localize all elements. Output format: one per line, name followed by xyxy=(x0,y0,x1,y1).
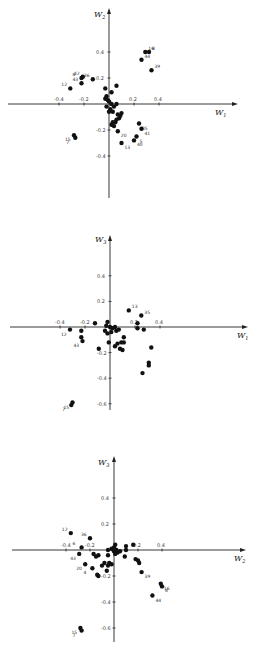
axes-3 xyxy=(12,456,246,642)
data-point xyxy=(83,562,87,566)
x-tick-label: -0.4 xyxy=(61,542,71,548)
y-tick-label: 0.4 xyxy=(97,273,105,279)
data-point xyxy=(109,562,113,566)
x-tick-label: -0.2 xyxy=(79,96,89,102)
data-point xyxy=(137,561,141,565)
point-label: 20 xyxy=(76,566,82,571)
point-label: 36 xyxy=(81,532,87,537)
x-tick-label: 0.2 xyxy=(129,96,137,102)
axes-2 xyxy=(10,235,248,410)
point-label: 35 xyxy=(144,310,150,315)
point-label: 13 xyxy=(125,145,131,150)
point-label: 8 xyxy=(165,588,168,593)
data-point xyxy=(88,536,92,540)
data-point xyxy=(104,104,108,108)
data-point xyxy=(140,371,144,375)
data-point xyxy=(106,553,110,557)
data-point xyxy=(123,554,127,558)
data-point xyxy=(79,81,83,85)
data-point xyxy=(117,327,121,331)
data-point xyxy=(113,325,117,329)
point-label: 41 xyxy=(145,131,151,136)
y-tick-label: 0.4 xyxy=(96,49,104,55)
y-axis-label-2: W3 xyxy=(95,235,106,245)
point-label: 7 xyxy=(62,407,65,412)
points-2: 13351243157 xyxy=(61,304,154,412)
point-label: 7 xyxy=(66,140,69,145)
point-label: 43 xyxy=(74,343,80,348)
y-axis-label-1: W2 xyxy=(94,10,105,20)
data-point xyxy=(149,68,153,72)
x-axis-label-2: W1 xyxy=(237,331,248,341)
x-tick-label: 0.4 xyxy=(154,96,162,102)
point-label: 39 xyxy=(155,64,161,69)
data-point xyxy=(109,330,113,334)
data-point xyxy=(150,593,154,597)
data-point xyxy=(109,90,113,94)
y-axis-label-3: W3 xyxy=(98,458,109,468)
data-point xyxy=(118,549,122,553)
data-point xyxy=(96,574,100,578)
data-point xyxy=(114,102,118,106)
data-point xyxy=(105,569,109,573)
data-point xyxy=(134,134,138,138)
x-axis-label-3: W2 xyxy=(234,554,245,564)
data-point xyxy=(139,58,143,62)
y-tick-label: -0.4 xyxy=(101,599,111,605)
data-point xyxy=(137,121,141,125)
point-label: 44 xyxy=(145,54,151,59)
data-point xyxy=(68,327,72,331)
x-tick-label: -0.4 xyxy=(55,319,65,325)
data-point xyxy=(79,545,83,549)
point-label: 13 xyxy=(132,304,138,309)
scatter-plot-w1-w3: -0.4-0.20.20.40.40.2-0.2-0.4-0.6 W3 W1 1… xyxy=(0,210,257,420)
ticks-2: -0.4-0.20.20.40.40.2-0.2-0.4-0.6 xyxy=(55,273,163,407)
data-point xyxy=(119,141,123,145)
data-point xyxy=(102,561,106,565)
plot-canvas-3: -0.4-0.20.20.40.40.2-0.2-0.4-0.6 W3 W2 1… xyxy=(0,420,257,651)
data-point xyxy=(124,544,128,548)
y-tick-label: 0.4 xyxy=(101,495,109,501)
data-point xyxy=(79,335,83,339)
data-point xyxy=(109,123,113,127)
point-label: 4 xyxy=(83,570,86,575)
data-point xyxy=(139,313,143,317)
data-point xyxy=(149,345,153,349)
data-point xyxy=(79,329,83,333)
point-label: 12 xyxy=(62,527,68,532)
y-tick-label: 0.2 xyxy=(97,298,105,304)
scatter-plot-w1-w2: -0.4-0.20.20.40.40.2-0.2-0.4 W2 W1 16844… xyxy=(0,0,257,210)
data-point xyxy=(69,531,73,535)
point-label: 43 xyxy=(73,77,79,82)
y-tick-label: -0.4 xyxy=(97,375,107,381)
y-tick-label: -0.4 xyxy=(96,153,106,159)
y-tick-label: -0.2 xyxy=(96,127,106,133)
data-point xyxy=(139,127,143,131)
point-label: 44 xyxy=(155,598,161,603)
data-point xyxy=(116,129,120,133)
axes-1 xyxy=(8,8,238,198)
data-point xyxy=(90,566,94,570)
data-point xyxy=(111,110,115,114)
data-point xyxy=(147,363,151,367)
point-label: 40 xyxy=(137,142,143,147)
data-point xyxy=(107,110,111,114)
data-point xyxy=(105,320,109,324)
point-label: 7 xyxy=(73,633,76,638)
points-3: 12366432043916844157 xyxy=(62,527,170,638)
y-tick-label: -0.6 xyxy=(101,625,111,631)
data-point xyxy=(119,111,123,115)
x-tick-label: -0.4 xyxy=(54,96,64,102)
point-label: 6 xyxy=(73,541,76,546)
data-point xyxy=(115,341,119,345)
x-tick-label: 0.4 xyxy=(155,319,163,325)
data-point xyxy=(114,84,118,88)
data-point xyxy=(69,403,73,407)
scatter-plot-w2-w3: -0.4-0.20.20.40.40.2-0.2-0.4-0.6 W3 W2 1… xyxy=(0,420,257,651)
data-point xyxy=(120,348,124,352)
data-point xyxy=(97,347,101,351)
data-point xyxy=(79,628,83,632)
x-axis-label-1: W1 xyxy=(215,108,226,118)
data-point xyxy=(142,327,146,331)
y-tick-label: 0.2 xyxy=(101,521,109,527)
